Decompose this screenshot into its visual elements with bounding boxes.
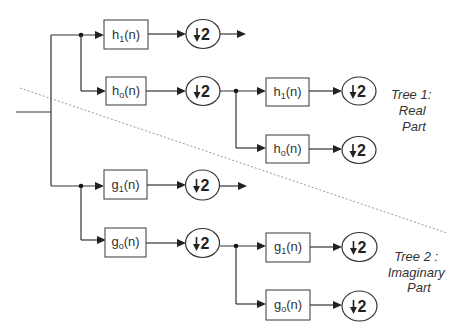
arrow-icon: [177, 239, 186, 247]
filter-block-h0-level2: ho(n): [266, 135, 309, 163]
filter-name: h: [112, 83, 119, 98]
filter-argument: (n): [286, 141, 302, 156]
filter-block-g1-level2: g1(n): [266, 233, 310, 262]
arrow-icon: [257, 144, 266, 152]
downsample-block: 2: [342, 291, 377, 321]
dual-tree-filter-bank-diagram: h1(n) 2 ho(n) 2: [0, 0, 459, 332]
downsample-block: 2: [186, 229, 220, 258]
arrow-icon: [257, 300, 266, 308]
arrow-icon: [257, 87, 266, 95]
downsample-factor: 2: [201, 177, 210, 194]
arrow-icon: [177, 30, 186, 38]
arrow-icon: [333, 145, 342, 153]
downsample-factor: 2: [201, 26, 210, 43]
filter-argument: (n): [286, 84, 302, 99]
filter-block-h1-level1: h1(n): [104, 20, 148, 49]
filter-name: h: [112, 27, 119, 42]
filter-name: h: [273, 84, 280, 99]
filter-argument: (n): [124, 177, 140, 192]
filter-argument: (n): [286, 239, 302, 254]
filter-name: g: [111, 234, 118, 249]
downsample-factor: 2: [357, 83, 366, 100]
arrow-icon: [95, 31, 104, 39]
arrow-icon: [97, 87, 106, 95]
downsample-block: 2: [342, 233, 377, 262]
svg-text:g1(n): g1(n): [111, 177, 139, 194]
filter-argument: (n): [124, 234, 140, 249]
downsample-block: 2: [342, 137, 376, 164]
downsample-block: 2: [186, 20, 220, 49]
arrow-icon: [95, 182, 104, 190]
arrow-icon: [333, 243, 342, 251]
arrow-icon: [177, 181, 186, 189]
svg-text:go(n): go(n): [274, 297, 302, 314]
tree1-real-part: h1(n) 2 ho(n) 2: [51, 20, 435, 164]
filter-block-h0-level1: ho(n): [106, 77, 146, 105]
arrow-icon: [177, 87, 186, 95]
tree1-caption: Tree 1: Real Part: [391, 87, 435, 134]
filter-name: g: [111, 177, 118, 192]
downsample-block: 2: [186, 170, 220, 200]
svg-text:ho(n): ho(n): [112, 83, 140, 100]
tree1-caption-line3: Part: [402, 119, 427, 134]
arrow-icon: [257, 242, 266, 250]
filter-block-g0-level2: go(n): [266, 290, 310, 320]
downsample-factor: 2: [358, 298, 367, 315]
tree1-caption-line1: Tree 1:: [391, 87, 432, 102]
filter-name: g: [274, 297, 281, 312]
filter-block-g0-level1: go(n): [105, 228, 146, 257]
downsample-block: 2: [342, 77, 376, 105]
arrow-icon: [333, 301, 342, 309]
downsample-factor: 2: [357, 142, 366, 159]
tree2-caption-line3: Part: [407, 280, 432, 295]
tree2-imaginary-part: g1(n) 2 go(n) 2: [51, 170, 448, 321]
svg-text:ho(n): ho(n): [273, 141, 301, 158]
filter-name: g: [274, 239, 281, 254]
tree2-caption: Tree 2 : Imaginary Part: [388, 249, 449, 295]
filter-block-h1-level2: h1(n): [266, 78, 309, 106]
svg-text:h1(n): h1(n): [112, 27, 140, 44]
svg-text:h1(n): h1(n): [273, 84, 301, 101]
arrow-icon: [238, 182, 247, 190]
filter-argument: (n): [124, 27, 140, 42]
input-wiring: [16, 35, 51, 186]
downsample-factor: 2: [358, 239, 367, 256]
tree2-caption-line1: Tree 2 :: [394, 249, 438, 264]
downsample-factor: 2: [201, 235, 210, 252]
tree2-caption-line2: Imaginary: [388, 265, 447, 280]
filter-name: h: [273, 141, 280, 156]
svg-text:go(n): go(n): [111, 234, 139, 251]
filter-argument: (n): [124, 83, 140, 98]
arrow-icon: [333, 87, 342, 95]
svg-text:g1(n): g1(n): [274, 239, 302, 256]
filter-block-g1-level1: g1(n): [104, 170, 147, 199]
tree1-caption-line2: Real: [399, 103, 427, 118]
filter-argument: (n): [286, 297, 302, 312]
downsample-factor: 2: [201, 83, 210, 100]
arrow-icon: [237, 30, 246, 38]
tree-divider-line: [20, 88, 447, 233]
downsample-block: 2: [186, 77, 220, 106]
